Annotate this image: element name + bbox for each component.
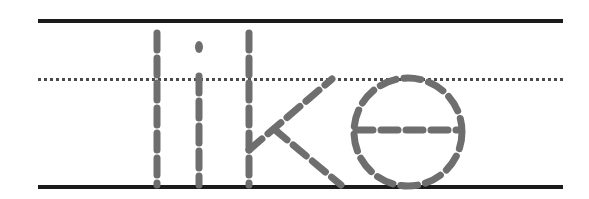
i-tittle [195, 41, 203, 53]
letter-i [195, 41, 203, 185]
letter-e [354, 78, 462, 186]
letter-k [249, 33, 341, 185]
traceable-word-like [0, 0, 589, 199]
handwriting-worksheet [0, 0, 589, 199]
k-lower-leg [274, 129, 341, 185]
